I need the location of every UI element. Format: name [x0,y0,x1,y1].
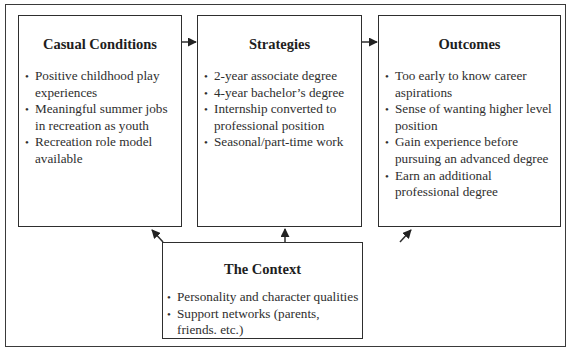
arrow-context-to-outcomes [400,230,411,242]
arrow-context-to-causal [152,230,163,242]
connector-arrows [0,0,574,358]
arrow-context-to-causal [150,228,173,270]
arrow-context-to-outcomes [362,228,413,242]
